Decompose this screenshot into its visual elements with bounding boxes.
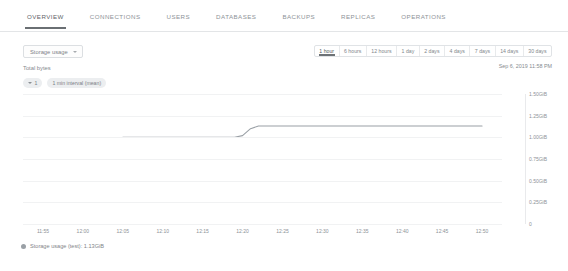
time-range-4-days[interactable]: 4 days: [445, 46, 470, 56]
y-axis-tick-label: 1.25GiB: [529, 113, 547, 119]
chart-plot[interactable]: 00.25GiB0.50GiB0.75GiB1.00GiB1.25GiB1.50…: [23, 94, 502, 224]
chart-area: 00.25GiB0.50GiB0.75GiB1.00GiB1.25GiB1.50…: [0, 90, 568, 240]
time-range-7-days[interactable]: 7 days: [470, 46, 495, 56]
y-axis-tick-label: 0: [529, 221, 532, 227]
filter-chip-group: 1 1 min interval (mean): [23, 78, 106, 88]
metric-select-label: Storage usage: [30, 49, 68, 55]
time-range-1-hour[interactable]: 1 hour: [315, 46, 340, 56]
tab-overview[interactable]: OVERVIEW: [27, 0, 64, 29]
chart-gridline: [23, 159, 502, 160]
chart-gridline: [23, 181, 502, 182]
tab-label: BACKUPS: [282, 13, 315, 20]
interval-chip-label: 1 min interval (mean): [52, 80, 101, 86]
chart-legend: Storage usage (test): 1.13GiB: [21, 243, 104, 249]
tab-label: DATABASES: [216, 13, 256, 20]
x-axis-tick-label: 12:50: [476, 228, 489, 234]
y-axis-line: [525, 94, 526, 224]
tab-label: REPLICAS: [341, 13, 375, 20]
chevron-down-icon: [73, 51, 77, 53]
time-range-2-days[interactable]: 2 days: [420, 46, 445, 56]
time-range-6-hours[interactable]: 6 hours: [340, 46, 367, 56]
tab-connections[interactable]: CONNECTIONS: [90, 0, 141, 29]
x-axis-tick-label: 12:30: [316, 228, 329, 234]
tab-backups[interactable]: BACKUPS: [282, 0, 315, 29]
time-range-label: 12 hours: [371, 48, 391, 54]
tab-label: OVERVIEW: [27, 13, 64, 20]
chart-gridline: [23, 137, 502, 138]
x-axis-tick-label: 12:20: [236, 228, 249, 234]
x-axis-tick-label: 11:55: [37, 228, 49, 234]
x-axis-tick-label: 12:10: [156, 228, 169, 234]
tab-bar: OVERVIEW CONNECTIONS USERS DATABASES BAC…: [0, 0, 568, 32]
metric-select[interactable]: Storage usage: [23, 45, 83, 58]
x-axis-tick-label: 12:35: [356, 228, 369, 234]
time-range-label: 1 hour: [319, 48, 334, 54]
x-axis-tick-label: 12:00: [77, 228, 90, 234]
chart-subtitle: Total bytes: [23, 65, 51, 71]
tab-label: CONNECTIONS: [90, 13, 141, 20]
time-range-14-days[interactable]: 14 days: [496, 46, 524, 56]
chart-gridline: [23, 116, 502, 117]
time-range-label: 14 days: [500, 48, 518, 54]
filter-chip-label: 1: [35, 80, 38, 86]
y-axis-tick-label: 1.50GiB: [529, 91, 547, 97]
time-range-label: 6 hours: [344, 48, 361, 54]
legend-label: Storage usage (test): 1.13GiB: [30, 243, 104, 249]
x-axis-tick-label: 12:25: [276, 228, 289, 234]
tab-label: USERS: [167, 13, 191, 20]
y-axis-tick-label: 0.50GiB: [529, 178, 547, 184]
x-axis-tick-label: 12:15: [196, 228, 209, 234]
x-axis-tick-label: 12:45: [436, 228, 449, 234]
time-range-12-hours[interactable]: 12 hours: [367, 46, 397, 56]
as-of-timestamp: Sep 6, 2019 11:58 PM: [499, 63, 552, 69]
tab-operations[interactable]: OPERATIONS: [401, 0, 446, 29]
x-axis-tick-label: 12:40: [396, 228, 409, 234]
time-range-label: 4 days: [450, 48, 465, 54]
interval-chip[interactable]: 1 min interval (mean): [47, 78, 106, 88]
chart-gridline: [23, 202, 502, 203]
time-range-30-days[interactable]: 30 days: [524, 46, 551, 56]
filter-funnel-icon: [28, 81, 32, 85]
legend-color-dot: [21, 244, 26, 249]
filter-chip[interactable]: 1: [23, 78, 42, 88]
time-range-label: 1 day: [402, 48, 415, 54]
y-axis-tick-label: 1.00GiB: [529, 134, 547, 140]
tab-databases[interactable]: DATABASES: [216, 0, 256, 29]
time-range-selector: 1 hour 6 hours 12 hours 1 day 2 days 4 d…: [314, 45, 552, 57]
x-axis-tick-label: 12:05: [117, 228, 130, 234]
tab-label: OPERATIONS: [401, 13, 446, 20]
time-range-label: 2 days: [424, 48, 439, 54]
tab-replicas[interactable]: REPLICAS: [341, 0, 375, 29]
metrics-dashboard: OVERVIEW CONNECTIONS USERS DATABASES BAC…: [0, 0, 568, 271]
time-range-label: 7 days: [475, 48, 490, 54]
chart-controls: Storage usage Total bytes 1 1 min interv…: [0, 32, 568, 94]
time-range-1-day[interactable]: 1 day: [397, 46, 420, 56]
chart-gridline: [23, 224, 502, 225]
tab-users[interactable]: USERS: [167, 0, 191, 29]
time-range-label: 30 days: [528, 48, 546, 54]
y-axis-tick-label: 0.75GiB: [529, 156, 547, 162]
chart-gridline: [23, 94, 502, 95]
y-axis-tick-label: 0.25GiB: [529, 199, 547, 205]
